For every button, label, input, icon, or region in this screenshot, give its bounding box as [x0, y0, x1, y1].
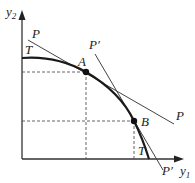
axes: [19, 10, 185, 163]
point-b-label: B: [141, 114, 149, 129]
ppf-diagram: y2 y1 T T A B P P P′ P′: [0, 0, 195, 183]
line-p-prime-label-end: P′: [161, 163, 173, 178]
point-a-label: A: [77, 54, 86, 69]
point-b: [131, 118, 137, 124]
line-p-label-end: P: [175, 108, 184, 123]
curve-label-bottom: T: [138, 143, 146, 158]
y-axis-label: y2: [4, 4, 17, 21]
point-a: [83, 69, 89, 75]
x-axis-arrow-icon: [174, 156, 184, 163]
x-axis-label: y1: [178, 163, 190, 180]
line-p-label-start: P: [31, 26, 40, 41]
dashed-guides: [22, 72, 134, 159]
curve-label-top: T: [25, 42, 33, 57]
y-axis-arrow-icon: [19, 10, 26, 20]
line-p-prime-label-start: P′: [88, 37, 100, 52]
